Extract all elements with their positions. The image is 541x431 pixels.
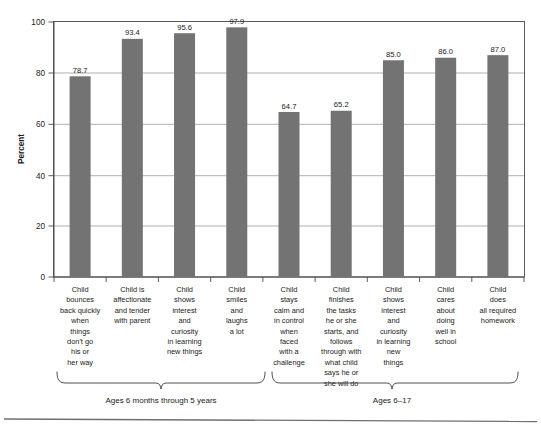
bar <box>435 58 456 277</box>
category-label-line: and tender <box>115 306 151 315</box>
category-label-line: through with <box>321 347 361 356</box>
bar-value-label: 65.2 <box>334 100 349 109</box>
category-label-line: in control <box>274 316 304 325</box>
bar-value-label: 97.9 <box>229 17 244 26</box>
group-label-ages-6-17: Ages 6–17 <box>373 396 412 405</box>
category-label-line: and <box>178 316 190 325</box>
footer-divider <box>4 419 537 422</box>
category-label-line: what child <box>324 358 358 367</box>
category-label-line: finishes <box>329 295 354 304</box>
bar <box>487 55 508 277</box>
bar-value-label: 87.0 <box>490 45 505 54</box>
category-label-line: and <box>387 316 399 325</box>
y-tick-label: 0 <box>40 273 45 282</box>
category-label-line: all required <box>480 306 517 315</box>
group-braces <box>57 372 518 389</box>
category-label: Childsmilesandlaughsa lot <box>226 285 248 336</box>
category-label-line: faced <box>280 337 298 346</box>
category-label-line: in learning <box>376 337 410 346</box>
category-label-line: in learning <box>168 337 202 346</box>
bar <box>279 112 300 277</box>
y-axis-title: Percent <box>17 134 26 164</box>
bar-value-label: 78.7 <box>73 66 88 75</box>
category-label-line: Child <box>385 285 402 294</box>
group-brace-1 <box>57 372 265 389</box>
category-label-line: Child <box>281 285 298 294</box>
category-label-line: his or <box>71 347 90 356</box>
bar <box>174 33 195 277</box>
category-label-line: Child <box>176 285 193 294</box>
category-label-line: and <box>231 306 243 315</box>
category-label: Child isaffectionateand tenderwith paren… <box>113 285 151 325</box>
bar-value-label: 85.0 <box>386 50 401 59</box>
category-label-line: calm and <box>274 306 304 315</box>
category-label: Childshowsinterestandcuriosityin learnin… <box>167 285 203 356</box>
category-label-line: stays <box>280 295 298 304</box>
bar-value-label: 93.4 <box>125 28 140 37</box>
category-label-line: the tasks <box>326 306 356 315</box>
y-tick-label: 100 <box>31 18 45 27</box>
category-label-line: a lot <box>230 327 244 336</box>
category-label: Childcaresaboutdoingwell inschool <box>434 285 456 346</box>
category-label-line: says he or <box>324 368 359 377</box>
bars-layer <box>70 27 509 277</box>
bar-value-label: 64.7 <box>282 102 297 111</box>
category-label-line: about <box>436 306 455 315</box>
group-label-ages-6-months-through-5-years: Ages 6 months through 5 years <box>105 396 216 405</box>
category-label-line: curiosity <box>380 327 407 336</box>
category-label: Childdoesall requiredhomework <box>480 285 517 325</box>
category-label-line: follows <box>330 337 353 346</box>
category-label-line: things <box>384 358 404 367</box>
category-label-line: smiles <box>226 295 247 304</box>
bar <box>70 76 91 277</box>
category-label-line: her way <box>67 358 93 367</box>
category-label-line: Child <box>72 285 89 294</box>
bar <box>226 27 247 277</box>
category-label-line: Child <box>437 285 454 294</box>
category-label-line: shows <box>383 295 404 304</box>
category-label: Childshowsinterestandcuriosityin learnin… <box>376 285 410 367</box>
category-label-line: with parent <box>113 316 150 325</box>
category-label: Childbouncesback quicklywhenthingsdon't … <box>60 285 101 367</box>
category-label-line: doing <box>437 316 455 325</box>
category-label-line: homework <box>481 316 515 325</box>
category-label-line: challenge <box>273 358 305 367</box>
category-label-line: when <box>279 327 298 336</box>
category-label-line: Child <box>333 285 350 294</box>
bar-value-label: 86.0 <box>438 47 453 56</box>
category-label-line: laughs <box>226 316 248 325</box>
category-label-line: with a <box>278 347 299 356</box>
bar-chart-figure: 0 20 40 60 80 100 Percent 78.793.495.697… <box>0 0 541 431</box>
category-label-line: Child <box>228 285 245 294</box>
category-label-line: cares <box>437 295 455 304</box>
category-label-line: he or she <box>326 316 357 325</box>
y-tick-label: 60 <box>36 120 46 129</box>
category-label-line: Child is <box>120 285 145 294</box>
category-label-line: interest <box>381 306 405 315</box>
category-label-line: well in <box>434 327 456 336</box>
category-label-line: interest <box>172 306 196 315</box>
category-label-line: does <box>490 295 506 304</box>
category-label-line: new <box>387 347 401 356</box>
bar-value-label: 95.6 <box>177 23 192 32</box>
bar <box>122 39 143 277</box>
category-labels: Childbouncesback quicklywhenthingsdon't … <box>60 285 516 388</box>
group-brace-2 <box>272 372 518 389</box>
y-tick-label: 80 <box>36 69 46 78</box>
chart-canvas: 0 20 40 60 80 100 Percent 78.793.495.697… <box>0 0 541 431</box>
category-label-line: when <box>70 316 89 325</box>
x-tick-marks <box>54 277 524 282</box>
category-label-line: curiosity <box>171 327 198 336</box>
category-label-line: don't go <box>67 337 93 346</box>
category-label-line: bounces <box>66 295 94 304</box>
category-label-line: affectionate <box>113 295 151 304</box>
bar <box>331 111 352 277</box>
category-label-line: shows <box>174 295 195 304</box>
category-label-line: Child <box>489 285 506 294</box>
y-tick-label: 20 <box>36 222 46 231</box>
y-tick-labels: 0 20 40 60 80 100 <box>31 18 45 282</box>
category-label-line: school <box>435 337 457 346</box>
bar <box>383 60 404 277</box>
category-label-line: new things <box>167 347 203 356</box>
category-label: Childstayscalm andin controlwhenfacedwit… <box>273 285 305 367</box>
